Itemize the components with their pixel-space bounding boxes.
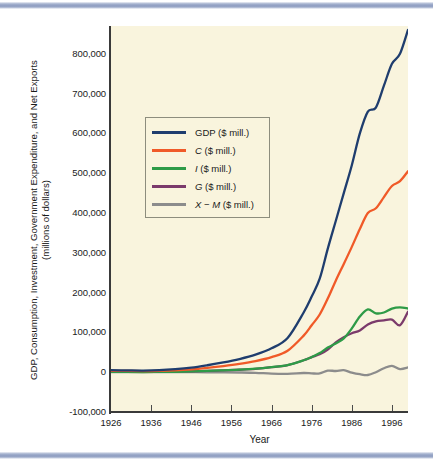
legend-item-label: C ($ mill.): [195, 145, 236, 156]
legend-color-swatch: [152, 131, 186, 134]
x-tick-label: 1996: [381, 417, 402, 428]
legend-item-label: I ($ mill.): [195, 163, 231, 174]
legend-color-swatch: [152, 149, 186, 152]
x-tick-label: 1966: [261, 417, 282, 428]
x-tick-label: 1986: [341, 417, 362, 428]
x-tick-label: 1946: [181, 417, 202, 428]
x-tick-mark: [352, 405, 353, 411]
legend-item: C ($ mill.): [146, 141, 269, 159]
legend-item-label: X − M ($ mill.): [195, 199, 254, 210]
series-line: [111, 307, 408, 372]
y-axis-title-line-2: (millions of dollars): [40, 180, 52, 260]
legend-color-swatch: [152, 167, 186, 170]
x-tick-mark: [151, 405, 152, 411]
legend-item: X − M ($ mill.): [146, 195, 269, 213]
x-tick-mark: [272, 405, 273, 411]
chart-legend: GDP ($ mill.)C ($ mill.)I ($ mill.)G ($ …: [145, 117, 270, 218]
y-axis-title-line-1: GDP, Consumption, Investment, Government…: [28, 60, 40, 380]
x-tick-mark: [231, 405, 232, 411]
series-lines: [111, 26, 408, 412]
legend-color-swatch: [152, 203, 186, 206]
legend-item: I ($ mill.): [146, 159, 269, 177]
chart-figure: -100,0000100,000200,000300,000400,000500…: [0, 0, 433, 471]
x-axis-title: Year: [111, 434, 408, 445]
legend-item-label: GDP ($ mill.): [195, 127, 249, 138]
legend-color-swatch: [152, 185, 186, 188]
x-tick-label: 1976: [301, 417, 322, 428]
x-tick-mark: [312, 405, 313, 411]
x-axis-line: [109, 411, 408, 413]
x-tick-label: 1926: [100, 417, 121, 428]
legend-item: GDP ($ mill.): [146, 123, 269, 141]
y-axis-line: [109, 26, 111, 414]
x-tick-mark: [191, 405, 192, 411]
series-line: [111, 312, 408, 372]
legend-item-label: G ($ mill.): [195, 181, 236, 192]
y-axis-title: GDP, Consumption, Investment, Government…: [25, 20, 55, 420]
x-tick-label: 1936: [141, 417, 162, 428]
legend-item: G ($ mill.): [146, 177, 269, 195]
x-tick-mark: [392, 405, 393, 411]
x-tick-label: 1956: [221, 417, 242, 428]
